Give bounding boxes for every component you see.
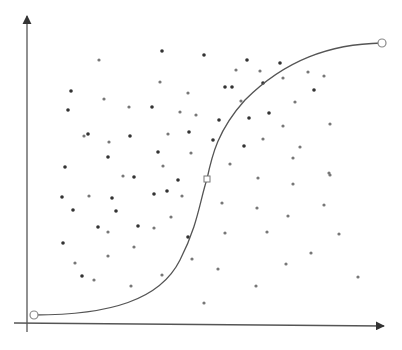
data-point <box>286 214 289 217</box>
data-point <box>121 174 124 177</box>
curve-midpoint-handle[interactable] <box>204 176 210 182</box>
data-point <box>328 173 331 176</box>
data-point <box>194 113 197 116</box>
data-point <box>190 257 193 260</box>
data-point <box>281 76 284 79</box>
data-point <box>216 267 219 270</box>
data-point <box>106 254 109 257</box>
data-point <box>322 203 325 206</box>
data-point <box>82 134 85 137</box>
data-point <box>189 151 192 154</box>
data-point <box>169 215 172 218</box>
data-point <box>160 49 164 53</box>
data-point <box>110 196 114 200</box>
data-point <box>291 156 294 159</box>
data-point <box>132 245 135 248</box>
data-point <box>234 68 237 71</box>
data-point <box>291 182 294 185</box>
data-point <box>128 134 132 138</box>
data-point <box>107 140 110 143</box>
data-point <box>160 273 163 276</box>
data-point <box>322 74 325 77</box>
data-point <box>96 225 100 229</box>
data-point <box>202 301 205 304</box>
data-point <box>309 251 312 254</box>
data-point <box>230 85 234 89</box>
data-point <box>156 150 160 154</box>
data-point <box>284 262 287 265</box>
data-point <box>337 232 340 235</box>
x-axis <box>14 323 384 326</box>
data-point <box>60 195 64 199</box>
data-point <box>166 132 169 135</box>
data-point <box>161 164 164 167</box>
data-point <box>267 111 271 115</box>
data-point <box>61 241 65 245</box>
data-point <box>312 88 316 92</box>
data-point <box>211 138 215 142</box>
data-point <box>255 206 258 209</box>
data-point <box>261 137 264 140</box>
data-point <box>63 165 67 169</box>
data-point <box>106 155 110 159</box>
data-point <box>152 226 155 229</box>
data-point <box>80 274 84 278</box>
data-point <box>328 122 331 125</box>
data-point <box>158 80 161 83</box>
curve-start-handle[interactable] <box>30 311 38 319</box>
data-point <box>239 99 242 102</box>
data-point <box>106 230 109 233</box>
data-point <box>186 91 189 94</box>
data-point <box>278 61 282 65</box>
data-point <box>73 261 76 264</box>
data-point <box>242 144 246 148</box>
data-point <box>129 284 132 287</box>
data-point <box>87 194 90 197</box>
data-point <box>258 69 261 72</box>
data-point <box>254 284 257 287</box>
data-point <box>202 53 206 57</box>
data-point <box>293 100 296 103</box>
data-point <box>298 145 301 148</box>
data-point <box>356 275 359 278</box>
data-point <box>132 175 136 179</box>
data-point <box>180 194 183 197</box>
curve-end-handle[interactable] <box>378 39 386 47</box>
data-point <box>102 97 105 100</box>
data-point <box>127 105 130 108</box>
data-point <box>152 192 156 196</box>
data-point <box>178 110 181 113</box>
data-point <box>92 278 95 281</box>
data-point <box>306 70 309 73</box>
data-point <box>256 176 259 179</box>
data-point <box>228 162 231 165</box>
data-point <box>66 108 70 112</box>
data-point <box>136 224 140 228</box>
data-point <box>176 178 180 182</box>
data-point <box>281 124 284 127</box>
data-point <box>223 85 227 89</box>
chart-canvas <box>0 0 402 350</box>
data-point <box>187 130 191 134</box>
scatter-chart <box>0 0 402 350</box>
data-point <box>86 132 90 136</box>
data-point <box>223 231 226 234</box>
data-point <box>97 58 100 61</box>
data-point <box>220 201 223 204</box>
data-point <box>69 89 73 93</box>
data-point <box>265 230 268 233</box>
data-point <box>245 58 249 62</box>
data-point <box>150 105 154 109</box>
data-point <box>114 209 118 213</box>
data-point <box>217 118 221 122</box>
data-point <box>247 116 251 120</box>
data-point <box>165 189 169 193</box>
data-point <box>71 208 75 212</box>
